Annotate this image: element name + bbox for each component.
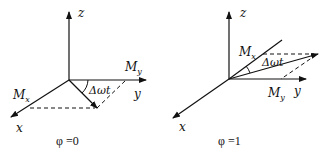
caption-phi-0: φ =0 (56, 134, 79, 148)
z-axis-label: z (77, 6, 85, 20)
mx-label: Mx (238, 45, 256, 61)
y-axis-label: y (133, 87, 141, 101)
z-axis-label: z (239, 6, 247, 20)
diagram-phi-1: z y x My Mx Δωt φ =1 (173, 6, 318, 148)
my-label: My (267, 86, 285, 102)
x-axis (173, 79, 229, 118)
diagram-canvas: z y x My Mx Δωt φ =0 z y x My Mx Δωt φ =… (0, 0, 326, 152)
mx-label: Mx (12, 88, 30, 104)
x-axis-label: x (16, 121, 23, 135)
diagram-phi-0: z y x My Mx Δωt φ =0 (11, 6, 146, 148)
angle-arc (246, 66, 250, 73)
my-label: My (124, 60, 142, 76)
angle-label: Δωt (261, 56, 284, 69)
angle-label: Δωt (88, 84, 111, 97)
angle-arc (82, 80, 88, 93)
caption-phi-1: φ =1 (218, 134, 241, 148)
x-axis-label: x (179, 120, 186, 134)
y-axis-label: y (293, 84, 301, 98)
dashed-projection-y (281, 55, 316, 79)
